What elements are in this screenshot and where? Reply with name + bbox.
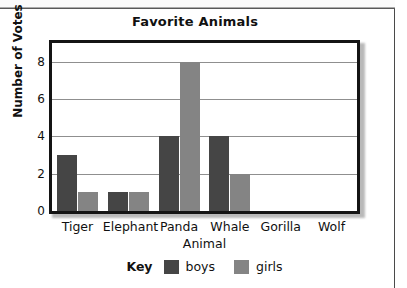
x-tick-label-gorilla: Gorilla: [255, 219, 306, 234]
bar-whale-girls: [230, 174, 250, 211]
x-tick-label-panda: Panda: [154, 219, 205, 234]
legend-title: Key: [126, 259, 152, 274]
plot-area: [49, 40, 360, 214]
page-top-margin: [0, 0, 407, 7]
legend-label-girls: girls: [256, 259, 283, 274]
bar-panda-boys: [159, 136, 179, 211]
chart-legend: Key boys girls: [49, 259, 360, 274]
y-tick-label: 2: [23, 168, 45, 180]
x-tick-label-elephant: Elephant: [103, 219, 154, 234]
legend-item-girls: girls: [234, 259, 283, 274]
chart-title: Favorite Animals: [0, 14, 390, 29]
y-tick-label: 6: [23, 93, 45, 105]
bars-layer: [52, 43, 357, 211]
chart-page: Favorite Animals Number of Votes 02468 T…: [0, 0, 407, 288]
y-tick-label: 0: [23, 205, 45, 217]
bar-tiger-girls: [78, 192, 98, 211]
bar-elephant-boys: [108, 192, 128, 211]
x-tick-label-wolf: Wolf: [306, 219, 357, 234]
x-tick-label-whale: Whale: [205, 219, 256, 234]
y-axis-tick-labels: 02468: [21, 40, 45, 214]
legend-item-boys: boys: [164, 259, 216, 274]
bar-tiger-boys: [57, 155, 77, 211]
y-tick-label: 4: [23, 130, 45, 142]
x-tick-label-tiger: Tiger: [52, 219, 103, 234]
bar-elephant-girls: [129, 192, 149, 211]
legend-swatch-girls: [234, 260, 249, 274]
bar-panda-girls: [180, 62, 200, 211]
page-right-margin: [395, 0, 407, 288]
page-top-rule: [0, 7, 407, 9]
legend-swatch-boys: [164, 260, 179, 274]
x-axis-title: Animal: [49, 236, 360, 251]
y-tick-label: 8: [23, 56, 45, 68]
x-axis-tick-labels: TigerElephantPandaWhaleGorillaWolf: [49, 219, 360, 237]
bar-whale-boys: [209, 136, 229, 211]
legend-label-boys: boys: [186, 259, 216, 274]
